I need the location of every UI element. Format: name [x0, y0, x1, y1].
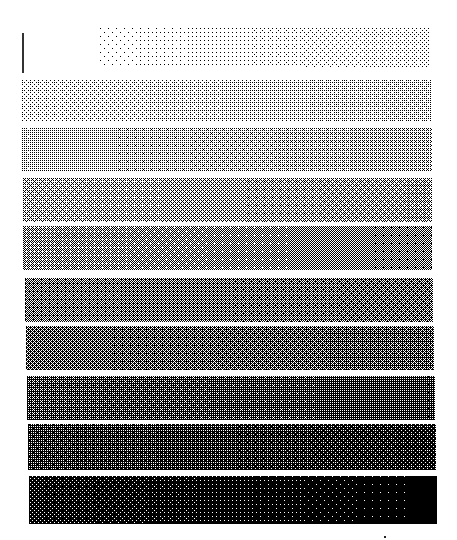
halftone-band-7	[27, 376, 435, 420]
halftone-band-6	[26, 326, 434, 370]
halftone-band-5	[25, 278, 433, 322]
halftone-band-9	[29, 476, 437, 524]
stray-mark	[384, 536, 386, 538]
halftone-band-canvas	[29, 476, 437, 524]
halftone-band-canvas	[27, 376, 435, 420]
halftone-band-0	[100, 28, 430, 68]
halftone-band-canvas	[22, 128, 432, 172]
halftone-band-1	[22, 80, 432, 122]
halftone-band-2	[22, 128, 432, 172]
halftone-band-canvas	[23, 178, 432, 222]
halftone-band-3	[23, 178, 432, 222]
halftone-band-canvas	[28, 424, 436, 470]
halftone-band-8	[28, 424, 436, 470]
halftone-band-canvas	[100, 28, 430, 68]
halftone-band-canvas	[26, 326, 434, 370]
vertical-marker-line	[22, 33, 24, 73]
halftone-band-canvas	[23, 226, 432, 270]
halftone-band-canvas	[25, 278, 433, 322]
halftone-band-4	[23, 226, 432, 270]
halftone-band-canvas	[22, 80, 432, 122]
